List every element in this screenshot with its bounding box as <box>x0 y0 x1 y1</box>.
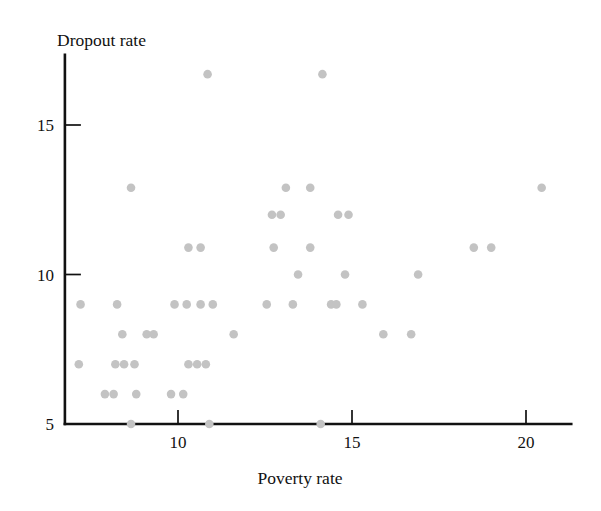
data-point <box>262 300 271 309</box>
data-point <box>318 70 327 79</box>
scatter-plot-canvas: 10152051015 Dropout rate Poverty rate <box>0 0 601 511</box>
data-point <box>203 70 212 79</box>
data-point <box>205 420 214 429</box>
data-point <box>127 420 136 429</box>
data-point <box>414 270 423 279</box>
data-point <box>76 300 85 309</box>
data-point <box>196 243 205 252</box>
data-point <box>111 360 120 369</box>
y-tick-label-15: 15 <box>37 116 54 135</box>
data-point <box>184 243 193 252</box>
data-point <box>470 243 479 252</box>
data-point <box>109 390 118 399</box>
data-point <box>170 300 179 309</box>
data-point <box>334 210 343 219</box>
data-point <box>341 270 350 279</box>
axis-tick-labels: 10152051015 <box>37 116 535 452</box>
data-point <box>379 330 388 339</box>
data-point <box>306 243 315 252</box>
data-point <box>316 420 325 429</box>
data-point <box>182 300 191 309</box>
data-point <box>209 300 218 309</box>
data-points <box>75 70 546 428</box>
y-axis-title: Dropout rate <box>57 30 146 50</box>
data-point <box>344 210 353 219</box>
data-point <box>118 330 127 339</box>
data-point <box>132 390 141 399</box>
data-point <box>184 360 193 369</box>
data-point <box>306 183 315 192</box>
x-tick-label-10: 10 <box>170 433 187 452</box>
data-point <box>196 300 205 309</box>
data-point <box>130 360 139 369</box>
data-point <box>289 300 298 309</box>
data-point <box>179 390 188 399</box>
axes <box>65 55 571 424</box>
data-point <box>269 243 278 252</box>
data-point <box>75 360 84 369</box>
y-tick-label-10: 10 <box>37 266 54 285</box>
data-point <box>407 330 416 339</box>
data-point <box>537 183 546 192</box>
data-point <box>193 360 202 369</box>
data-point <box>167 390 176 399</box>
data-point <box>332 300 341 309</box>
x-axis-title: Poverty rate <box>257 468 342 488</box>
data-point <box>282 183 291 192</box>
y-tick-label-5: 5 <box>45 415 54 434</box>
data-point <box>276 210 285 219</box>
data-point <box>120 360 129 369</box>
data-point <box>487 243 496 252</box>
data-point <box>101 390 110 399</box>
scatter-plot-figure: 10152051015 Dropout rate Poverty rate <box>0 0 601 511</box>
data-point <box>127 183 136 192</box>
data-point <box>149 330 158 339</box>
x-tick-label-15: 15 <box>344 433 361 452</box>
data-point <box>358 300 367 309</box>
data-point <box>268 210 277 219</box>
data-point <box>202 360 211 369</box>
data-point <box>113 300 122 309</box>
x-tick-label-20: 20 <box>518 433 535 452</box>
data-point <box>294 270 303 279</box>
data-point <box>229 330 238 339</box>
